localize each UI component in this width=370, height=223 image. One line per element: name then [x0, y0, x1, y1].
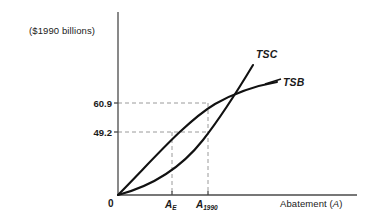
curve-label-tsb: TSB — [283, 76, 305, 88]
x-axis-title-text: Abatement ( — [280, 198, 333, 209]
y-tick-label-492: 49.2 — [72, 127, 112, 138]
origin-label: 0 — [108, 199, 114, 209]
chart-figure: ($1990 billions) 60.9 49.2 0 AE A1990 Ab… — [0, 0, 370, 223]
curve-tsb — [118, 82, 277, 195]
x-axis-title: Abatement (A) — [280, 199, 343, 209]
x-tick-label-abatement-efficient: AE — [165, 199, 177, 210]
x-tick-label-abatement-1990: A1990 — [196, 199, 218, 210]
curve-label-tsc: TSC — [256, 48, 278, 60]
y-tick-label-609: 60.9 — [72, 98, 112, 109]
x-tick-ae-sub: E — [172, 204, 176, 211]
x-axis-title-close: ) — [339, 198, 342, 209]
y-axis-title: ($1990 billions) — [29, 26, 95, 36]
x-tick-a1990-sub: 1990 — [203, 204, 217, 211]
